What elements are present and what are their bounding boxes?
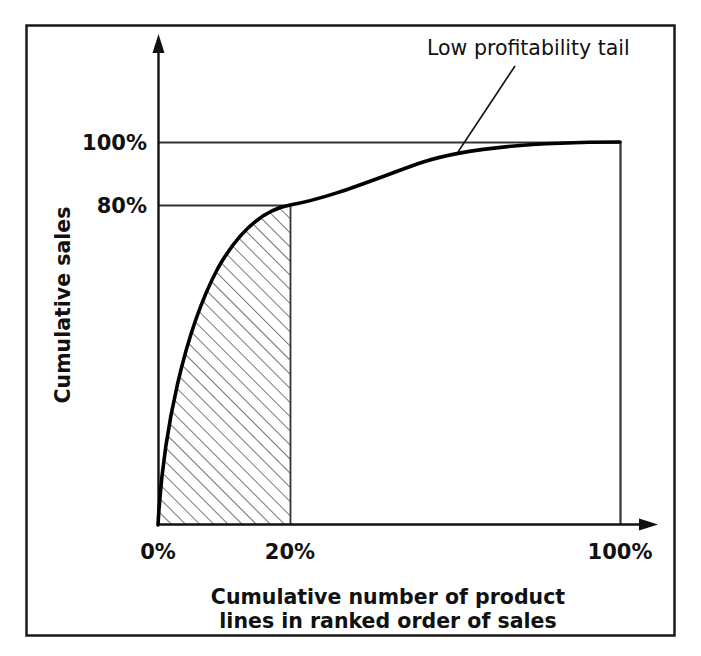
y-axis xyxy=(153,34,165,525)
x-tick-label-100: 100% xyxy=(588,540,653,564)
annotation-leader-line xyxy=(458,66,515,152)
figure-root: Low profitability tail 100% 80% 0% 20% 1… xyxy=(0,0,701,656)
pareto-chart: Low profitability tail 100% 80% 0% 20% 1… xyxy=(0,0,701,656)
y-tick-label-80: 80% xyxy=(97,194,147,218)
x-axis-title-line-1: Cumulative number of product xyxy=(211,585,565,609)
x-tick-label-20: 20% xyxy=(265,540,315,564)
pareto-shaded-area xyxy=(150,195,300,535)
x-axis-title-line-2: lines in ranked order of sales xyxy=(219,609,556,633)
y-tick-label-100: 100% xyxy=(82,131,147,155)
x-tick-label-0: 0% xyxy=(140,540,176,564)
y-axis-title: Cumulative sales xyxy=(51,207,75,404)
figure-border xyxy=(27,26,675,636)
annotation-label: Low profitability tail xyxy=(427,36,630,60)
